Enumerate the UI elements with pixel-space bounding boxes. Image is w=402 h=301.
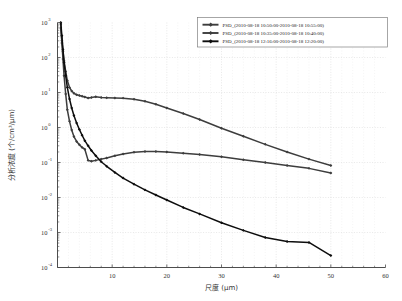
data-point	[286, 240, 289, 243]
y-tick-label: 10	[41, 19, 48, 26]
legend-label-2[interactable]: PSD_(2010-08-18 12:16:00-2010-08-18 12:2…	[223, 39, 325, 44]
x-tick-labels: 102030405060	[109, 272, 389, 279]
data-point	[100, 96, 103, 99]
x-tick-label: 30	[218, 272, 225, 279]
x-axis-title: 尺度 (μm)	[205, 283, 238, 292]
data-point	[105, 96, 108, 99]
data-point	[94, 159, 97, 162]
legend-label-0[interactable]: PSD_(2010-08-18 10:50:00-2010-08-18 10:5…	[223, 23, 325, 28]
data-point	[286, 164, 289, 167]
data-point	[122, 97, 125, 100]
data-point	[68, 98, 71, 101]
data-series-group	[59, 21, 332, 257]
data-point	[329, 172, 332, 175]
data-point	[182, 152, 185, 155]
data-point	[66, 108, 69, 111]
y-axis-title: 分析浓度 (个/cm³/μm)	[7, 109, 16, 181]
chart-legend[interactable]: PSD_(2010-08-18 10:50:00-2010-08-18 10:5…	[198, 18, 388, 48]
legend-label-1[interactable]: PSD_(2010-08-18 10:35:00-2010-08-18 10:4…	[223, 31, 325, 36]
y-tick-labels: 10-410-310-210-1100101102103	[41, 17, 53, 271]
y-tick-label: 10	[41, 264, 48, 271]
data-point	[220, 155, 223, 158]
data-point	[154, 150, 157, 153]
x-tick-label: 20	[164, 272, 171, 279]
x-tick-label: 10	[109, 272, 116, 279]
y-tick-exponent: -1	[48, 157, 53, 162]
data-point	[122, 153, 125, 156]
chart-figure: 102030405060 10-410-310-210-110010110210…	[0, 0, 402, 301]
data-point	[264, 161, 267, 164]
gridlines	[58, 23, 386, 268]
data-point	[242, 158, 245, 161]
y-tick-label: 10	[41, 54, 48, 61]
y-tick-exponent: 1	[48, 87, 51, 92]
y-tick-label: 10	[41, 89, 48, 96]
data-point	[143, 150, 146, 153]
y-tick-label: 10	[41, 229, 48, 236]
data-point	[133, 151, 136, 154]
data-point	[307, 167, 310, 170]
data-point	[198, 153, 201, 156]
y-tick-exponent: -2	[48, 192, 53, 197]
data-point	[133, 98, 136, 101]
x-tick-label: 40	[273, 272, 280, 279]
y-tick-exponent: 3	[48, 17, 51, 22]
data-point	[113, 96, 116, 99]
x-tick-label: 60	[382, 272, 389, 279]
y-tick-exponent: -4	[48, 262, 53, 267]
y-tick-exponent: -3	[48, 227, 53, 232]
particle-size-distribution-chart: 102030405060 10-410-310-210-110010110210…	[0, 0, 402, 301]
y-tick-label: 10	[41, 159, 48, 166]
y-tick-exponent: 2	[48, 52, 51, 57]
data-point	[68, 120, 71, 123]
x-tick-label: 50	[328, 272, 335, 279]
data-point	[94, 95, 97, 98]
data-point	[165, 150, 168, 153]
data-point	[66, 86, 69, 89]
y-tick-label: 10	[41, 194, 48, 201]
y-tick-exponent: 0	[48, 122, 51, 127]
y-tick-label: 10	[41, 124, 48, 131]
data-point	[64, 93, 67, 96]
